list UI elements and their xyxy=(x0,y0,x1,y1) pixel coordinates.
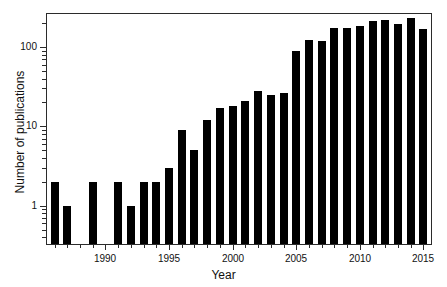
y-tick-label: 10 xyxy=(0,121,37,131)
x-tick-minor xyxy=(118,245,119,248)
x-tick-minor xyxy=(55,245,56,248)
x-tick-label: 2000 xyxy=(213,253,253,264)
bar xyxy=(330,28,338,244)
x-tick-minor xyxy=(93,245,94,248)
bar xyxy=(394,24,402,244)
x-tick-minor xyxy=(385,245,386,248)
x-tick-label: 2010 xyxy=(340,253,380,264)
x-tick-minor xyxy=(411,245,412,248)
bar xyxy=(165,168,173,244)
x-tick-minor xyxy=(334,245,335,248)
x-tick-minor xyxy=(144,245,145,248)
bar xyxy=(216,108,224,244)
x-tick-minor xyxy=(373,245,374,248)
x-tick xyxy=(105,245,106,250)
bar xyxy=(369,21,377,244)
x-tick-minor xyxy=(347,245,348,248)
bar xyxy=(419,29,427,244)
bar xyxy=(127,206,135,244)
x-tick-label: 2005 xyxy=(276,253,316,264)
x-tick-minor xyxy=(398,245,399,248)
x-tick-minor xyxy=(207,245,208,248)
bar xyxy=(114,182,122,244)
x-tick-minor xyxy=(220,245,221,248)
bar xyxy=(51,182,59,244)
bar-series xyxy=(47,14,431,244)
bar xyxy=(152,182,160,244)
bar xyxy=(140,182,148,244)
x-tick-minor xyxy=(322,245,323,248)
x-tick-minor xyxy=(194,245,195,248)
bar xyxy=(63,206,71,244)
bar xyxy=(305,40,313,244)
bar xyxy=(381,20,389,244)
x-tick-minor xyxy=(80,245,81,248)
x-tick xyxy=(360,245,361,250)
x-tick xyxy=(423,245,424,250)
x-tick-minor xyxy=(309,245,310,248)
y-tick-label: 1 xyxy=(0,201,37,211)
x-tick-label: 2015 xyxy=(403,253,443,264)
x-tick xyxy=(169,245,170,250)
x-tick-label: 1995 xyxy=(149,253,189,264)
x-tick-minor xyxy=(182,245,183,248)
bar xyxy=(356,26,364,244)
bar xyxy=(241,101,249,244)
bar xyxy=(267,95,275,244)
x-tick-minor xyxy=(271,245,272,248)
bar xyxy=(203,120,211,244)
x-tick-minor xyxy=(284,245,285,248)
x-tick-minor xyxy=(67,245,68,248)
bar xyxy=(229,106,237,244)
x-tick xyxy=(296,245,297,250)
x-tick-label: 1990 xyxy=(85,253,125,264)
bar xyxy=(407,18,415,244)
bar xyxy=(190,150,198,244)
x-tick-minor xyxy=(131,245,132,248)
chart-figure: Number of publications 110100 1990199520… xyxy=(0,0,447,287)
x-tick-minor xyxy=(258,245,259,248)
x-tick-minor xyxy=(245,245,246,248)
x-tick-minor xyxy=(156,245,157,248)
x-tick xyxy=(233,245,234,250)
bar xyxy=(343,28,351,244)
x-axis-title: Year xyxy=(0,268,447,282)
bar xyxy=(254,91,262,244)
bar xyxy=(89,182,97,244)
y-tick-label: 100 xyxy=(0,42,37,52)
bar xyxy=(280,93,288,244)
bar xyxy=(318,41,326,244)
bar xyxy=(178,130,186,244)
bar xyxy=(292,51,300,244)
